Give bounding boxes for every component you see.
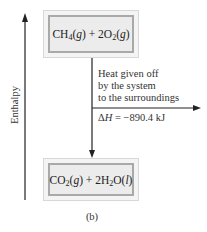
heat-note: Heat given off by the system to the surr… — [98, 68, 179, 104]
products-box-inner: CO2(g) + 2H2O(l) — [48, 163, 134, 196]
delta-h-label: ΔH = −890.4 kJ — [98, 112, 165, 124]
reactants-box: CH4(g) + 2O2(g) — [43, 10, 139, 58]
reaction-arrowhead-icon — [89, 150, 95, 158]
heat-note-line3: to the surroundings — [98, 92, 179, 104]
enthalpy-axis-label: Enthalpy — [9, 83, 23, 127]
heat-arrowhead-icon — [193, 105, 201, 111]
products-box: CO2(g) + 2H2O(l) — [43, 158, 139, 201]
heat-note-line2: by the system — [98, 80, 179, 92]
products-formula: CO2(g) + 2H2O(l) — [50, 174, 133, 186]
reactants-box-inner: CH4(g) + 2O2(g) — [48, 15, 134, 53]
figure-caption: (b) — [82, 211, 102, 222]
heat-note-line1: Heat given off — [98, 68, 179, 80]
reactants-formula: CH4(g) + 2O2(g) — [52, 28, 129, 40]
axis-arrowhead-icon — [22, 13, 28, 22]
